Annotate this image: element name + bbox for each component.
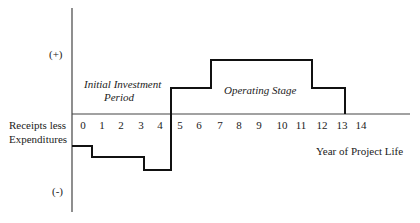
x-axis-label: Year of Project Life xyxy=(316,145,403,157)
operating-stage-label: Operating Stage xyxy=(224,84,296,96)
x-tick-3: 3 xyxy=(138,119,144,131)
x-tick-2: 2 xyxy=(118,119,124,131)
x-tick-5: 5 xyxy=(177,119,183,131)
chart-canvas xyxy=(0,0,420,223)
x-tick-7: 7 xyxy=(217,119,223,131)
initial-investment-label-line1: Initial Investment xyxy=(84,78,161,90)
y-negative-label: (-) xyxy=(52,185,63,197)
y-positive-label: (+) xyxy=(49,48,63,60)
x-tick-4: 4 xyxy=(157,119,163,131)
x-tick-9: 9 xyxy=(256,119,262,131)
y-axis-label-line2: Expenditures xyxy=(9,133,67,145)
x-tick-1: 1 xyxy=(99,119,105,131)
x-tick-13: 13 xyxy=(337,119,348,131)
cash-flow-step-line xyxy=(72,60,345,170)
initial-investment-label-line2: Period xyxy=(104,91,134,103)
x-tick-12: 12 xyxy=(317,119,328,131)
x-tick-6: 6 xyxy=(196,119,202,131)
x-tick-14: 14 xyxy=(356,119,367,131)
y-axis-label-line1: Receipts less xyxy=(9,119,66,131)
x-tick-0: 0 xyxy=(80,119,86,131)
x-tick-8: 8 xyxy=(236,119,242,131)
x-tick-10: 10 xyxy=(277,119,288,131)
x-tick-11: 11 xyxy=(296,119,307,131)
